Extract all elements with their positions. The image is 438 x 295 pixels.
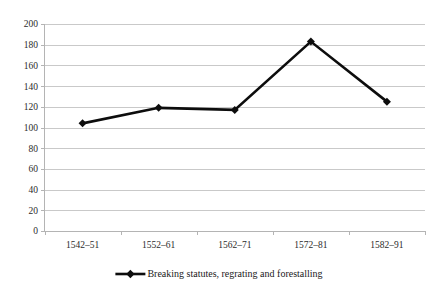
y-tick-label-200: 200 [24, 19, 39, 29]
legend-entry-label: Breaking statutes, regrating and foresta… [147, 268, 322, 279]
x-tick-label-4: 1582–91 [370, 240, 404, 250]
y-tick-label-40: 40 [29, 185, 39, 195]
y-tick-label-120: 120 [24, 102, 39, 112]
y-tick-label-60: 60 [29, 164, 39, 174]
y-tick-label-20: 20 [29, 206, 39, 216]
chart-background [0, 0, 438, 295]
y-tick-label-0: 0 [33, 226, 38, 236]
chart-legend: Breaking statutes, regrating and foresta… [115, 268, 322, 279]
x-tick-label-3: 1572–81 [294, 240, 328, 250]
chart-canvas: 020406080100120140160180200 1542–511552–… [0, 0, 438, 295]
x-tick-label-0: 1542–51 [66, 240, 100, 250]
y-tick-label-180: 180 [24, 40, 39, 50]
line-chart: 020406080100120140160180200 1542–511552–… [0, 0, 438, 295]
y-tick-label-80: 80 [29, 144, 39, 154]
x-tick-label-2: 1562–71 [218, 240, 252, 250]
y-tick-label-140: 140 [24, 82, 39, 92]
y-tick-label-100: 100 [24, 123, 39, 133]
x-tick-label-1: 1552–61 [142, 240, 176, 250]
y-tick-label-160: 160 [24, 61, 39, 71]
